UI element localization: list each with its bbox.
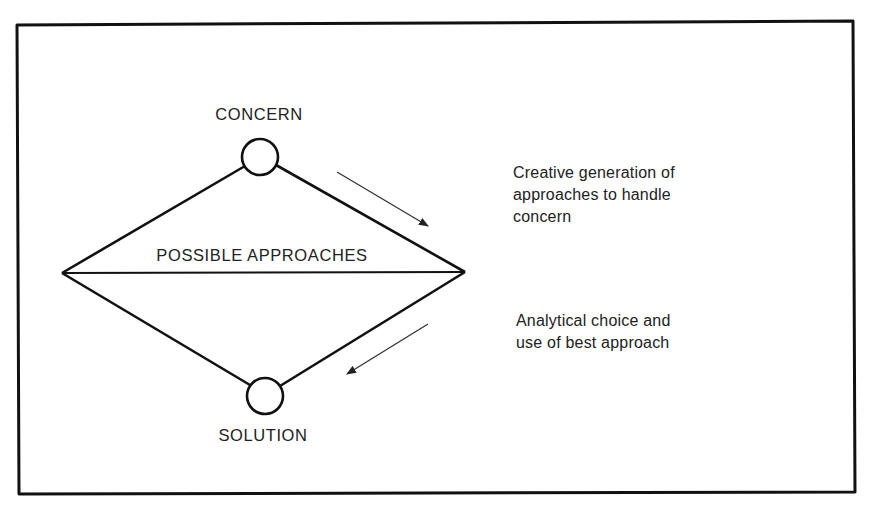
diamond-edge-lower-left [62, 273, 250, 385]
convergent-annotation: Analytical choice and use of best approa… [516, 310, 671, 354]
diamond-edge-lower-right [280, 272, 465, 386]
divergent-annotation: Creative generation of approaches to han… [513, 162, 675, 228]
concern-label: CONCERN [215, 106, 303, 123]
convergent-annotation-line-2: use of best approach [516, 332, 671, 354]
divergent-annotation-line-1: Creative generation of [513, 162, 675, 184]
concern-node-circle [242, 139, 278, 175]
solution-node-circle [247, 378, 283, 414]
convergent-annotation-line-1: Analytical choice and [516, 310, 671, 332]
frame-border [17, 21, 855, 494]
approaches-divider-line [62, 272, 465, 273]
convergent-arrow-icon [347, 324, 428, 374]
possible-approaches-label: POSSIBLE APPROACHES [156, 247, 367, 264]
divergent-annotation-line-3: concern [513, 206, 675, 228]
divergent-arrow-icon [337, 172, 428, 226]
divergent-annotation-line-2: approaches to handle [513, 184, 675, 206]
diagram-canvas [0, 0, 869, 512]
solution-label: SOLUTION [218, 427, 307, 444]
